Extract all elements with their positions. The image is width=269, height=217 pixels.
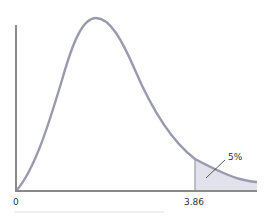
x-tick-critical: 3.86	[184, 197, 204, 207]
caption-bar	[14, 211, 164, 213]
chart: 0 3.86 5%	[0, 0, 269, 217]
x-tick-zero: 0	[13, 197, 19, 207]
tail-percent-label: 5%	[228, 152, 243, 162]
distribution-curve	[16, 18, 257, 191]
